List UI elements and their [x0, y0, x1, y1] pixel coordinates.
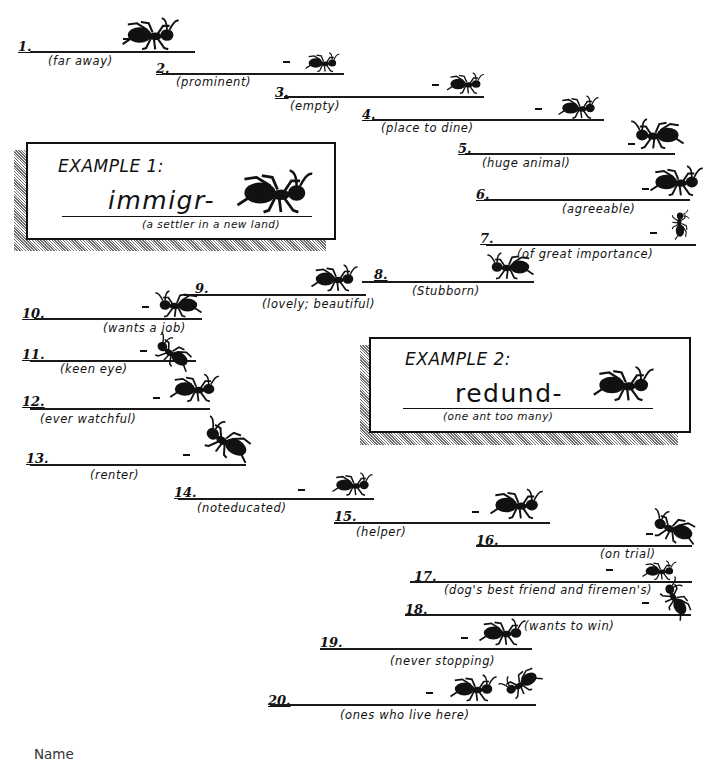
item-hint-8: (Stubborn)	[412, 284, 480, 298]
example-1-hint: (a settler in a new land)	[142, 218, 280, 230]
item-hint-13: (renter)	[90, 468, 139, 482]
item-hint-2: (prominent)	[176, 75, 251, 89]
suffix-dash-20	[426, 692, 433, 694]
item-hint-12: (ever watchful)	[40, 412, 136, 426]
item-hint-15: (helper)	[356, 525, 406, 539]
suffix-dash-13	[183, 454, 190, 456]
item-hint-5: (huge animal)	[482, 156, 570, 170]
item-hint-4: (place to dine)	[381, 121, 474, 135]
item-hint-6: (agreeable)	[562, 202, 635, 216]
example-1-title: EXAMPLE 1:	[58, 156, 164, 176]
ant-icon	[234, 168, 314, 218]
example-2-title: EXAMPLE 2:	[405, 349, 511, 369]
suffix-dash-12	[153, 397, 160, 399]
answer-line-3[interactable]	[284, 96, 484, 98]
item-hint-9: (lovely; beautiful)	[262, 297, 375, 311]
item-number-8: 8.	[374, 268, 388, 281]
suffix-dash-18	[642, 602, 649, 604]
ant-icon-3	[444, 72, 486, 96]
suffix-dash-17	[606, 569, 613, 571]
ant-icon-11	[150, 334, 196, 374]
item-hint-14: (noteducated)	[197, 501, 287, 515]
suffix-dash-10	[142, 306, 149, 308]
ant-icon-9	[306, 264, 362, 294]
answer-line-12[interactable]	[30, 408, 210, 410]
suffix-dash-7	[650, 232, 657, 234]
item-hint-1: (far away)	[48, 54, 113, 68]
ant-icon-16	[648, 512, 700, 546]
ant-icon-14	[316, 472, 388, 498]
answer-line-18[interactable]	[405, 614, 691, 616]
item-hint-11: (keen eye)	[60, 362, 128, 376]
ant-icon-18	[654, 580, 698, 620]
answer-line-9[interactable]	[184, 294, 366, 296]
ant-icon	[591, 359, 655, 411]
item-hint-16: (on trial)	[600, 547, 656, 561]
suffix-dash-2	[283, 61, 290, 63]
ant-icon-1	[120, 16, 180, 54]
answer-line-14[interactable]	[178, 498, 374, 500]
ant-icon-13	[198, 420, 256, 464]
ant-icon-2	[292, 52, 352, 74]
answer-line-19[interactable]	[320, 648, 532, 650]
example-2-word: redund-	[455, 379, 563, 408]
ant-icon-19	[472, 618, 532, 648]
answer-line-20[interactable]	[270, 704, 536, 706]
suffix-dash-3	[432, 84, 439, 86]
suffix-dash-14	[298, 489, 305, 491]
suffix-dash-15	[472, 511, 479, 513]
item-hint-18: (wants to win)	[524, 619, 614, 633]
ant-icon-20b	[500, 662, 544, 704]
ant-icon-5	[630, 116, 686, 154]
ant-icon-7	[664, 204, 696, 246]
suffix-dash-19	[461, 637, 468, 639]
ant-icon-6	[648, 164, 704, 200]
example-1-box: EXAMPLE 1: immigr- (a settler in a new l…	[26, 142, 336, 240]
example-1-word: immigr-	[108, 186, 215, 215]
item-hint-19: (never stopping)	[390, 654, 495, 668]
item-hint-20: (ones who live here)	[340, 708, 470, 722]
answer-line-13[interactable]	[30, 464, 246, 466]
item-number-12: 12.	[22, 395, 45, 408]
name-label: Name	[34, 746, 74, 762]
example-2-box: EXAMPLE 2: redund- (one ant too many)	[369, 337, 691, 433]
item-hint-3: (empty)	[290, 99, 340, 113]
ant-icon-8	[486, 252, 536, 282]
ant-icon-4	[550, 95, 606, 121]
item-hint-17: (dog's best friend and firemen's)	[444, 583, 652, 597]
ant-icon-10	[150, 290, 208, 320]
ant-icon-12	[168, 370, 220, 408]
item-hint-7: (of great importance)	[517, 247, 653, 261]
suffix-dash-4	[535, 108, 542, 110]
answer-line-15[interactable]	[334, 522, 550, 524]
example-2-hint: (one ant too many)	[443, 410, 553, 422]
ant-icon-15	[484, 488, 548, 522]
